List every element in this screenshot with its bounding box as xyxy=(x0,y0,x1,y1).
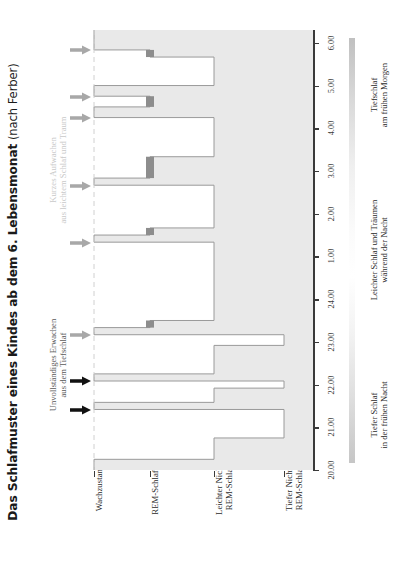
gradient-legend-line: Tiefer Schlaf xyxy=(369,381,379,448)
time-tick-label: 21.00 xyxy=(318,420,344,434)
arousal-arrow-light-icon xyxy=(70,41,92,51)
time-tick-label: 6.00 xyxy=(318,36,344,50)
category-tick xyxy=(214,471,215,477)
category-label-rem-schlaf: REM-Schlaf xyxy=(115,488,185,558)
time-tick-label: 2.00 xyxy=(318,207,344,221)
category-line: REM-Schlaf xyxy=(294,465,304,511)
time-tick-label-text: 4.00 xyxy=(327,121,336,136)
time-tick-label: 3.00 xyxy=(318,164,344,178)
rem-segment-marker xyxy=(146,228,154,235)
arousal-arrow-light-icon xyxy=(70,234,92,244)
gradient-legend-line: in der frühen Nacht xyxy=(379,381,389,448)
time-tick-label: 23.00 xyxy=(318,335,344,349)
arousal-arrow-light-icon xyxy=(70,88,92,98)
gradient-legend-label: Tiefer Schlafin der frühen Nacht xyxy=(356,360,400,470)
gradient-legend-label: Tiefschlafam frühen Morgen xyxy=(356,40,400,150)
gradient-legend-line: während der Nacht xyxy=(379,200,389,300)
time-tick-label-text: 1.00 xyxy=(327,249,336,264)
arousal-arrow-light-icon xyxy=(70,177,92,187)
arousal-arrow-dark-icon xyxy=(70,401,92,411)
rem-segment-marker xyxy=(146,157,154,178)
annotation-line: aus dem Tiefschlaf xyxy=(58,319,68,411)
gradient-legend-line: am frühen Morgen xyxy=(379,63,389,127)
time-tick-label-text: 6.00 xyxy=(327,35,336,50)
category-tick xyxy=(150,471,151,477)
rem-segment-marker xyxy=(146,96,154,107)
arousal-arrow-light-icon xyxy=(70,109,92,119)
time-tick-label: 20.00 xyxy=(318,463,344,477)
time-axis-line xyxy=(313,30,315,471)
annotation-line: Kurzes Aufwachen xyxy=(48,117,58,224)
category-line: Tiefer Nicht- xyxy=(284,465,294,511)
gradient-legend-line: Tiefschlaf xyxy=(369,63,379,127)
time-tick-label-text: 3.00 xyxy=(327,164,336,179)
rem-segment-marker xyxy=(146,50,154,57)
arousal-arrow-light-icon xyxy=(70,326,92,336)
plot-area xyxy=(88,30,313,470)
sleep-pattern-chart: Das Schlafmuster eines Kindes ab dem 6. … xyxy=(0,0,400,583)
category-label-leichter-nicht-rem-schlaf: Leichter Nicht- REM-Schlaf xyxy=(179,488,249,558)
category-line: REM-Schlaf xyxy=(150,470,160,514)
time-tick-label-text: 21.00 xyxy=(327,418,336,437)
time-tick-label-text: 23.00 xyxy=(327,332,336,351)
category-label-tiefer-nicht-rem-schlaf: Tiefer Nicht- REM-Schlaf xyxy=(249,488,319,558)
time-tick-label-text: 22.00 xyxy=(327,375,336,394)
hypnogram-svg xyxy=(88,30,313,470)
gradient-legend-line: Leichter Schlaf und Träumen xyxy=(369,200,379,300)
time-tick-label-text: 24.00 xyxy=(327,290,336,309)
annotation-line: Unvollständiges Erwachen xyxy=(48,319,58,411)
time-tick-label: 5.00 xyxy=(318,79,344,93)
time-tick-label: 22.00 xyxy=(318,378,344,392)
title-sub: (nach Ferber) xyxy=(6,63,20,143)
arousal-arrow-dark-icon xyxy=(70,372,92,382)
time-tick-label-text: 5.00 xyxy=(327,78,336,93)
sleep-depth-gradient-bar xyxy=(349,38,355,463)
category-tick xyxy=(284,471,285,477)
time-tick-label-text: 20.00 xyxy=(327,461,336,480)
category-tick xyxy=(94,471,95,477)
gradient-legend-label: Leichter Schlaf und Träumenwährend der N… xyxy=(356,175,400,325)
time-tick-label: 4.00 xyxy=(318,121,344,135)
category-line: Wachzustand xyxy=(94,465,104,512)
title-main: Das Schlafmuster eines Kindes ab dem 6. … xyxy=(6,143,20,520)
time-tick-label-text: 2.00 xyxy=(327,206,336,221)
rem-segment-marker xyxy=(146,320,154,327)
time-tick-label: 24.00 xyxy=(318,292,344,306)
annotation-line: aus leichtem Schlaf und Traum xyxy=(58,117,68,224)
page-title: Das Schlafmuster eines Kindes ab dem 6. … xyxy=(0,0,28,583)
time-tick-label: 1.00 xyxy=(318,249,344,263)
